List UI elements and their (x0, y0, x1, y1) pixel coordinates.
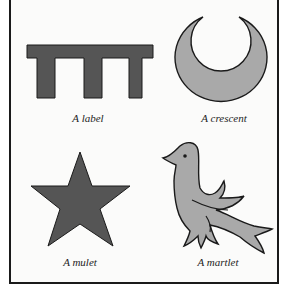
caption-martlet: A martlet (197, 256, 238, 268)
heraldic-charges-figure (0, 0, 290, 294)
crescent-icon (175, 17, 267, 101)
star-icon (31, 152, 130, 246)
caption-label: A label (72, 112, 103, 124)
caption-crescent: A crescent (201, 112, 247, 124)
martlet-bird-icon (163, 143, 272, 253)
label-icon (27, 45, 153, 98)
caption-mullet: A mulet (63, 256, 97, 268)
